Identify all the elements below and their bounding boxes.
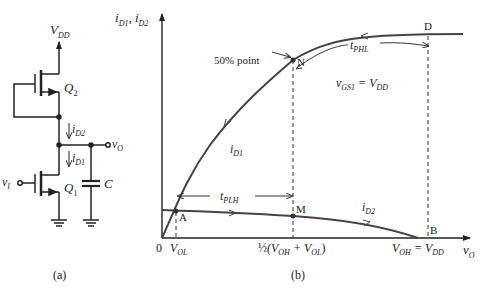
- fifty-percent-pointer: [272, 52, 290, 57]
- tphl-label: tPHL: [350, 38, 368, 54]
- tphl-arrow-right: [380, 43, 428, 46]
- caption-a: (a): [53, 268, 66, 283]
- output-terminal: [106, 143, 110, 147]
- ground-icon: [83, 220, 99, 226]
- capacitor-label: C: [104, 176, 113, 192]
- id1-curve-label: iD1: [230, 142, 243, 158]
- y-axis-label: iD1, iD2: [115, 10, 148, 28]
- point-m: [291, 214, 296, 219]
- point-m-label: M: [296, 203, 306, 215]
- tplh-label: tPLH: [220, 189, 238, 205]
- point-b-label: B: [430, 224, 437, 236]
- voh-tick-label: VOH = VDD: [392, 241, 444, 257]
- vol-tick-label: VOL: [170, 241, 188, 257]
- fifty-percent-label: 50% point: [214, 54, 260, 66]
- id2-current-label: iD2: [72, 122, 85, 138]
- origin-label: 0: [156, 241, 162, 256]
- id1-curve: [162, 34, 463, 238]
- point-n: [291, 58, 296, 63]
- point-a-label: A: [179, 211, 187, 223]
- vgs-condition-label: vGS1 = VDD: [336, 76, 388, 92]
- mid-tick-label: ½(VOH + VOL): [258, 241, 326, 257]
- figure: VDD Q2 Q1 iD2 iD1 vO vI C (a) iD1, iD2 v…: [0, 0, 485, 292]
- id2-curve-label: iD2: [362, 200, 375, 216]
- ground-icon: [51, 220, 67, 226]
- input-terminal: [18, 181, 22, 185]
- q1-label: Q1: [64, 180, 77, 198]
- q1-source-arrow-icon: [49, 189, 56, 195]
- vdd-label: VDD: [50, 22, 70, 40]
- point-a: [174, 209, 179, 214]
- id2-curve: [162, 210, 418, 238]
- q2-label: Q2: [64, 80, 77, 98]
- caption-b: (b): [291, 268, 305, 283]
- circuit-schematic: [14, 42, 110, 226]
- vo-output-label: vO: [112, 137, 123, 153]
- vi-input-label: vI: [2, 175, 10, 191]
- q2-source-arrow-icon: [49, 89, 56, 95]
- point-n-label: N: [297, 56, 305, 68]
- q2-gate-tie: [14, 84, 59, 117]
- point-d-label: D: [424, 20, 432, 32]
- x-axis-label: vO: [463, 242, 475, 260]
- id1-current-label: iD1: [72, 151, 85, 167]
- transfer-plot: [162, 14, 470, 238]
